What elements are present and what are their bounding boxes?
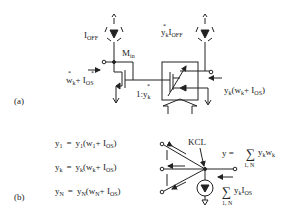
equation-1: y1=y1(w1+ IOS) xyxy=(55,138,117,149)
sum-output-expression: y = xyxy=(222,148,234,158)
svg-text:1, N: 1, N xyxy=(244,162,255,168)
panel-a-label: (a) xyxy=(14,96,24,106)
ratio-label: 1:yk xyxy=(136,89,151,100)
input-current-label: wk+ IOS xyxy=(66,75,94,86)
right-offset-current-source xyxy=(196,14,214,71)
svg-text:ykwk: ykwk xyxy=(258,147,275,158)
svg-text:*: * xyxy=(163,23,166,29)
programming-block-arrow xyxy=(163,99,197,114)
svg-text:*: * xyxy=(68,70,71,76)
svg-text:*: * xyxy=(147,83,150,89)
svg-text:*: * xyxy=(91,70,94,76)
panel-a-labels: (a) IOFF ykIOFF * Min wk+ IOS * * 1:yk *… xyxy=(14,23,265,106)
equation-k: yk=yk(wk+ IOS) xyxy=(55,162,117,173)
kcl-label: KCL xyxy=(188,137,206,147)
svg-text:y1=y1(w1+ IOS): y1=y1(w1+ IOS) xyxy=(55,138,117,149)
output-current-label: yk(wk+ IOS) xyxy=(224,85,265,96)
equation-n: yN=yN(wN+ IOS) xyxy=(55,186,121,197)
svg-text:IOFF: IOFF xyxy=(84,30,99,41)
svg-text:yk=yk(wk+ IOS): yk=yk(wk+ IOS) xyxy=(55,162,117,173)
floating-gate-transistor xyxy=(162,62,211,105)
circuit-diagram: (a) IOFF ykIOFF * Min wk+ IOS * * 1:yk *… xyxy=(0,0,291,223)
svg-text:∑: ∑ xyxy=(246,146,255,161)
panel-b-labels: (b) y1=y1(w1+ IOS) yk=yk(wk+ IOS) yN=yN(… xyxy=(14,137,275,206)
svg-text:y =: y = xyxy=(222,148,234,158)
sum-offset-expression: ∑ 1, N ykIOS xyxy=(222,184,252,206)
svg-text:Min: Min xyxy=(122,48,135,59)
left-offset-current-source xyxy=(105,14,123,62)
svg-text:∑: ∑ xyxy=(222,184,231,199)
input-terminal xyxy=(102,60,106,64)
svg-text:ykIOS: ykIOS xyxy=(234,185,252,196)
panel-a xyxy=(88,14,222,114)
output-terminal xyxy=(209,70,213,74)
svg-text:1, N: 1, N xyxy=(222,200,233,206)
panel-b-label: (b) xyxy=(14,192,25,202)
svg-text:yN=yN(wN+ IOS): yN=yN(wN+ IOS) xyxy=(55,186,121,197)
